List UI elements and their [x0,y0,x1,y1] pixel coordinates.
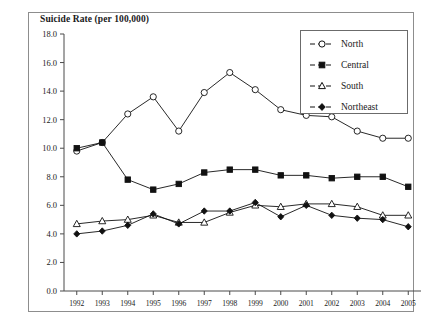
data-point-marker [278,173,283,178]
y-axis-tick-label: 2.0 [46,257,57,267]
y-axis-tick-label: 6.0 [46,200,57,210]
x-axis-tick-label: 1996 [171,299,186,308]
chart-legend: North Central South Northeast [300,30,408,114]
legend-label-central: Central [341,60,369,70]
data-point-marker [380,174,385,179]
data-point-marker [151,187,156,192]
data-point-marker [406,184,411,189]
x-axis-tick-label: 2004 [375,299,390,308]
x-axis-tick-label: 1999 [248,299,263,308]
x-axis-tick-label: 2005 [401,299,416,308]
legend-item-south: South [309,75,363,96]
data-point-marker [176,128,182,134]
x-axis-tick-label: 2001 [299,299,314,308]
data-point-marker [329,176,334,181]
data-point-marker [329,212,335,218]
data-point-marker [201,89,207,95]
y-axis-tick-label: 8.0 [46,172,57,182]
data-point-marker [278,214,284,220]
legend-key-open-triangle-icon [309,80,335,92]
data-point-marker [125,111,131,117]
legend-key-filled-square-icon [309,59,335,71]
data-point-marker [354,215,360,221]
y-axis-tick-label: 12.0 [42,115,57,125]
data-point-marker [100,140,105,145]
data-point-marker [252,87,258,93]
legend-label-south: South [341,81,363,91]
x-axis-tick-label: 2003 [350,299,365,308]
x-axis-tick-label: 1995 [146,299,161,308]
y-axis-tick-label: 18.0 [42,29,57,39]
data-point-marker [74,146,79,151]
data-point-marker [201,208,207,214]
series-south [73,200,412,226]
y-axis-tick-label: 10.0 [42,143,57,153]
data-point-marker [304,173,309,178]
legend-item-central: Central [309,54,369,75]
x-axis-tick-label: 1998 [222,299,237,308]
x-axis-tick-label: 1993 [95,299,110,308]
legend-item-north: North [309,33,363,54]
data-point-marker [253,167,258,172]
data-point-marker [227,69,233,75]
legend-item-northeast: Northeast [309,96,378,117]
data-point-marker [405,135,411,141]
data-point-marker [176,181,181,186]
x-axis-tick-label: 2000 [273,299,288,308]
data-point-marker [202,170,207,175]
data-point-marker [227,167,232,172]
data-point-marker [405,224,411,230]
data-point-marker [380,135,386,141]
legend-key-filled-diamond-icon [309,101,335,113]
data-point-marker [125,177,130,182]
data-point-marker [354,128,360,134]
data-point-marker [150,94,156,100]
legend-label-north: North [341,39,363,49]
legend-label-northeast: Northeast [341,102,378,112]
series-northeast [74,199,412,237]
legend-key-open-circle-icon [309,38,335,50]
y-axis-tick-label: 14.0 [42,86,57,96]
data-point-marker [355,174,360,179]
y-axis-tick-label: 0.0 [46,286,57,296]
x-axis-tick-label: 1992 [69,299,84,308]
y-axis-tick-label: 4.0 [46,229,57,239]
x-axis-tick-label: 2002 [324,299,339,308]
data-point-marker [74,231,80,237]
x-axis-tick-label: 1997 [197,299,212,308]
data-point-marker [99,228,105,234]
x-axis-tick-label: 1994 [120,299,135,308]
series-central [74,140,411,193]
y-axis-tick-label: 16.0 [42,58,57,68]
data-point-marker [303,202,309,208]
data-point-marker [278,107,284,113]
data-point-marker [125,222,131,228]
